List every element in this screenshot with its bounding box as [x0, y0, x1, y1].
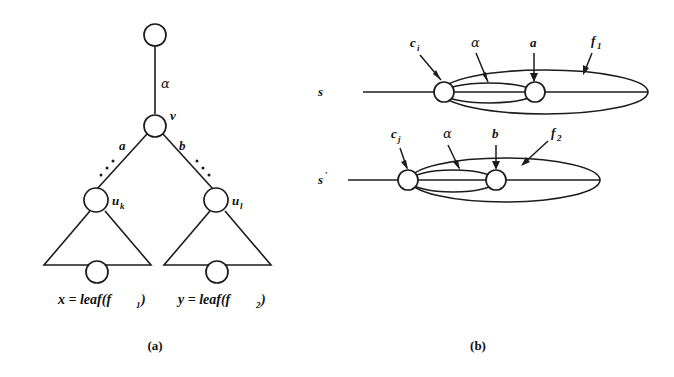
node-label-uk: u [112, 193, 119, 208]
leaf-equation-right-text: y = leaf(f [176, 292, 232, 308]
ellipse-alpha-inner-row-s-prime [410, 170, 496, 192]
subtree-triangle-right [164, 211, 271, 265]
edge-label-alpha: α [161, 76, 170, 91]
ellipsis-dots-right [196, 160, 211, 177]
arrowhead-b-row-s-prime [492, 161, 500, 170]
figure-svg: α v a b [0, 0, 674, 377]
arrowhead-a-row-s [530, 73, 538, 82]
ellipsis-dots-left [100, 160, 115, 177]
row-s-group: s c i α [317, 33, 648, 114]
node-label-v: v [170, 108, 176, 123]
ellipse-alpha-inner-row-s [443, 83, 535, 103]
leaf-node-left [86, 261, 108, 283]
node-ul [204, 188, 228, 212]
leaf-equation-right: y = leaf(f 2 ) [176, 292, 266, 310]
node-label-uk-subscript: k [120, 201, 125, 211]
node-v [144, 115, 166, 137]
annotation-f2-subscript: 2 [556, 133, 562, 143]
row-label-s-prime: s [317, 172, 323, 187]
annotation-b-text: b [492, 126, 499, 141]
arrowhead-cj [401, 160, 408, 170]
node-cj-row-s-prime [398, 170, 418, 190]
leaf-equation-left: x = leaf(f 1 ) [57, 292, 146, 310]
leaf-equation-left-subscript: 1 [136, 300, 141, 310]
annotation-cj: c j [391, 126, 408, 170]
node-ci-row-s [434, 82, 454, 102]
leaf-node-right [206, 261, 228, 283]
node-root [144, 24, 166, 46]
annotation-ci-text: c [410, 35, 416, 50]
subtree-triangle-left [44, 211, 151, 265]
annotation-a-text: a [530, 35, 537, 50]
row-label-s: s [317, 84, 323, 99]
figure-root: α v a b [0, 0, 674, 377]
edge-label-b: b [179, 138, 186, 153]
caption-panel-b: (b) [470, 338, 486, 353]
panel-a-group: α v a b [44, 24, 271, 353]
node-label-ul-subscript: l [240, 201, 243, 211]
node-label-ul: u [232, 193, 239, 208]
arrowhead-f1 [583, 65, 589, 75]
leaf-equation-left-text: x = leaf(f [57, 292, 112, 308]
node-a-row-s [525, 82, 545, 102]
panel-b-group: s c i α [317, 33, 648, 353]
row-label-s-prime-mark: ′ [325, 170, 328, 180]
node-uk [84, 188, 108, 212]
annotation-ci: c i [410, 35, 441, 80]
annotation-alpha-text: α [471, 35, 480, 50]
annotation-b-row-s-prime: b [492, 126, 500, 170]
caption-panel-a: (a) [147, 338, 162, 353]
edge-v-to-ul [163, 134, 213, 189]
edge-label-a: a [119, 138, 126, 153]
annotation-cj-text: c [391, 126, 397, 141]
row-s-prime-group: s ′ c j α [317, 125, 600, 202]
annotation-f1: f 1 [583, 33, 602, 75]
annotation-a-row-s: a [530, 35, 538, 82]
annotation-alpha2-text: α [443, 126, 452, 141]
annotation-ci-subscript: i [417, 43, 420, 53]
annotation-f1-subscript: 1 [597, 41, 602, 51]
node-b-row-s-prime [486, 170, 506, 190]
